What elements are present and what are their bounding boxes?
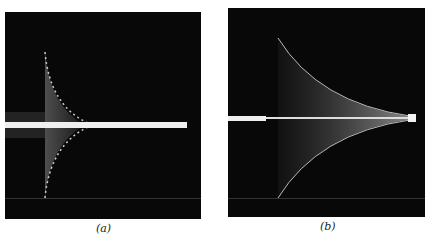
panel-a-caption: (a) [96, 222, 111, 235]
panel-b-image [228, 8, 425, 217]
panel-b-caption: (b) [320, 220, 336, 233]
panel-a-image [5, 12, 201, 219]
